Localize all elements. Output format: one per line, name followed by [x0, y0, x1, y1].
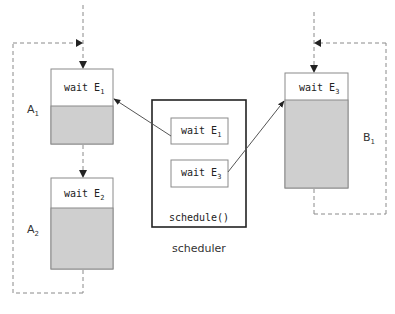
task-b1-label: B1	[363, 131, 375, 146]
arrow-head-icon	[310, 65, 318, 73]
arrow-head-icon	[79, 170, 87, 178]
task-b1: wait E3	[285, 73, 348, 188]
diagram-svg: wait E1 A1 wait E2 A2 wait E3 B1 wait E1…	[0, 0, 395, 314]
arrow-head-icon	[76, 39, 83, 47]
scheduler-caption: scheduler	[172, 242, 226, 255]
schedule-function-label: schedule()	[169, 212, 229, 223]
task-a1: wait E1	[51, 69, 113, 144]
task-a2: wait E2	[51, 178, 113, 269]
task-a2-label: A2	[27, 223, 39, 238]
scheduler-box: wait E1 wait E3 schedule()	[152, 100, 246, 227]
task-a1-label: A1	[27, 103, 39, 118]
arrow-head-icon	[79, 61, 87, 69]
arrow-head-icon	[314, 39, 321, 47]
diagram-canvas: wait E1 A1 wait E2 A2 wait E3 B1 wait E1…	[0, 0, 395, 314]
